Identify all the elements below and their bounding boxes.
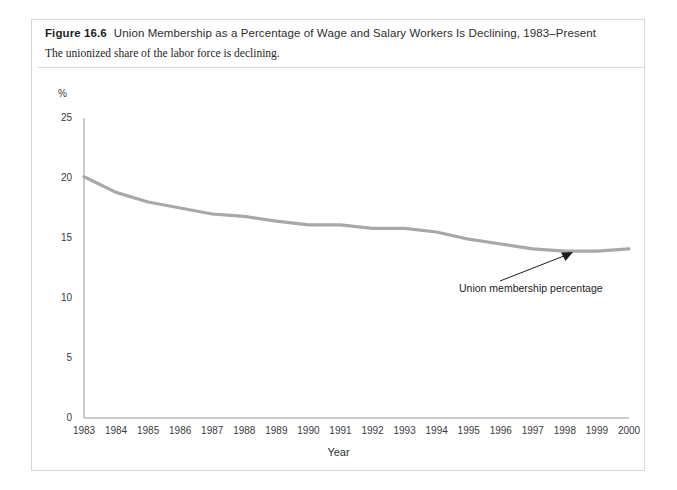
y-tick-label: 5 bbox=[46, 352, 72, 363]
y-tick-label: 15 bbox=[46, 232, 72, 243]
x-tick-label: 2000 bbox=[612, 425, 646, 436]
figure-frame bbox=[31, 19, 645, 471]
x-tick-label: 1984 bbox=[99, 425, 133, 436]
x-tick-label: 1983 bbox=[67, 425, 101, 436]
x-tick-label: 1985 bbox=[131, 425, 165, 436]
x-tick-label: 1998 bbox=[548, 425, 582, 436]
figure-subtitle: The unionized share of the labor force i… bbox=[45, 46, 635, 60]
x-tick-label: 1994 bbox=[420, 425, 454, 436]
y-tick-label: 25 bbox=[46, 112, 72, 123]
x-tick-label: 1991 bbox=[323, 425, 357, 436]
x-tick-label: 1999 bbox=[580, 425, 614, 436]
figure-title-text: Union Membership as a Percentage of Wage… bbox=[114, 27, 596, 39]
y-tick-label: 20 bbox=[46, 172, 72, 183]
x-tick-label: 1988 bbox=[227, 425, 261, 436]
y-tick-label: 10 bbox=[46, 292, 72, 303]
x-tick-label: 1986 bbox=[163, 425, 197, 436]
x-tick-label: 1990 bbox=[291, 425, 325, 436]
x-tick-label: 1993 bbox=[388, 425, 422, 436]
series-annotation-label: Union membership percentage bbox=[459, 282, 603, 294]
x-axis-title: Year bbox=[0, 446, 677, 458]
y-tick-label: 0 bbox=[46, 412, 72, 423]
x-tick-label: 1995 bbox=[452, 425, 486, 436]
x-tick-label: 1987 bbox=[195, 425, 229, 436]
figure-caption-block: Figure 16.6Union Membership as a Percent… bbox=[45, 26, 635, 60]
figure-number-label: Figure 16.6 bbox=[45, 27, 107, 39]
x-tick-label: 1996 bbox=[484, 425, 518, 436]
caption-divider bbox=[38, 67, 645, 68]
x-tick-label: 1992 bbox=[356, 425, 390, 436]
x-tick-label: 1989 bbox=[259, 425, 293, 436]
x-tick-label: 1997 bbox=[516, 425, 550, 436]
figure-title: Figure 16.6Union Membership as a Percent… bbox=[45, 26, 635, 41]
y-axis-unit-label: % bbox=[58, 88, 67, 99]
